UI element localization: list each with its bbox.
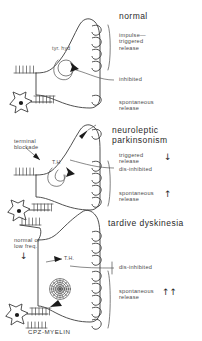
impulse-train-normal-upper (14, 66, 36, 73)
panel-title-parkinsonism: neuroleptic parkinsonism (112, 126, 167, 145)
tyrosine-hydroxylase-label-parkinsonism: T.H (52, 160, 60, 166)
myelin-whorl (50, 279, 71, 300)
impulse-triggered-release-label: impulse— triggered release (119, 32, 146, 51)
cpz-myelin-caption: CPZ-MYELIN (28, 329, 70, 336)
triggered-release-label: triggered release (119, 152, 143, 165)
soma-parkinsonism (8, 200, 30, 221)
spontaneous-release-label-normal: spontaneous release (119, 99, 154, 112)
spontaneous-release-double-up-arrow: ↑↑ (162, 288, 177, 297)
dopamine-terminal-diagram: normal impulse— triggered release inhibi… (0, 0, 202, 341)
spontaneous-release-label-parkinsonism: spontaneous release (119, 190, 154, 203)
impulse-train-parkinsonism-upper (14, 168, 36, 175)
spontaneous-release-label-tardive: spontaneous release (119, 288, 154, 301)
soma-tardive (6, 304, 28, 325)
soma-normal (10, 92, 32, 113)
low-freq-down-arrow: ↓ (20, 252, 28, 261)
triggered-release-down-arrow: ↓ (164, 153, 172, 162)
panel-tardive-graphic (6, 210, 114, 329)
panel-title-tardive: tardive dyskinesia (108, 219, 184, 229)
panel-normal-graphic (10, 19, 114, 113)
dis-inhibited-label-tardive: dis-inhibited (119, 264, 152, 270)
normal-or-low-freq-label: normal or low freq. (14, 237, 40, 250)
dis-inhibited-label-parkinsonism: dis-inhibited (119, 166, 152, 172)
panel-title-normal: normal (119, 12, 148, 22)
terminal-blockade-label: terminal blockade (14, 138, 38, 151)
inhibited-label: inhibited (119, 76, 142, 82)
spontaneous-release-up-arrow: ↑ (164, 190, 172, 199)
tyrosine-hydroxylase-label-tardive: T.H. (64, 256, 74, 262)
tyrosine-hydroxylase-label-normal: tyr. hyd (52, 46, 70, 52)
